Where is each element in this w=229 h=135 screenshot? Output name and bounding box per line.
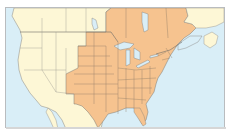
frame-shadow (6, 127, 226, 129)
north-america-map (6, 8, 225, 128)
map-frame (5, 7, 225, 128)
lake-michigan (126, 50, 130, 66)
